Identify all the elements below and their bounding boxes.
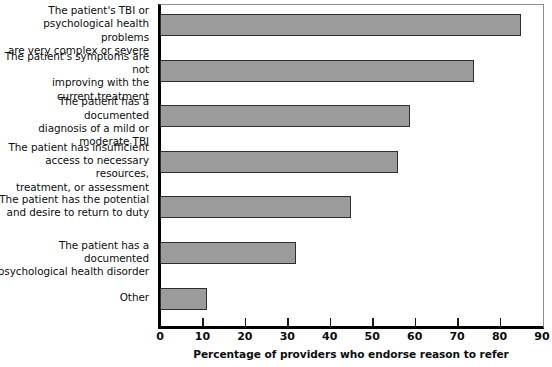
x-tick-label: 10: [189, 330, 215, 343]
bars-container: [160, 4, 542, 326]
bar-chart: The patient's TBI orpsychological health…: [0, 0, 552, 367]
bar: [160, 196, 351, 218]
category-label-line: improving with the: [0, 76, 149, 89]
category-label: The patient has the potentialand desire …: [0, 193, 149, 220]
category-label-line: access to necessary resources,: [0, 154, 149, 181]
bar: [160, 151, 398, 173]
category-label-line: treatment, or assessment: [0, 181, 149, 194]
x-tick-label: 60: [402, 330, 428, 343]
category-label-line: psychological health problems: [0, 17, 149, 44]
category-label-line: The patient has insufficient: [0, 141, 149, 154]
x-tick-label: 70: [444, 330, 470, 343]
bar: [160, 14, 521, 36]
category-label-line: The patient's symptoms are not: [0, 50, 149, 77]
bar: [160, 242, 296, 264]
bar: [160, 288, 207, 310]
x-tick-label: 20: [232, 330, 258, 343]
x-tick-label: 30: [274, 330, 300, 343]
category-label-line: psychological health disorder: [0, 265, 149, 278]
category-label-line: Other: [0, 291, 149, 304]
category-label-line: and desire to return to duty: [0, 206, 149, 219]
bar: [160, 60, 474, 82]
category-label: The patient has insufficientaccess to ne…: [0, 141, 149, 194]
category-label: Other: [0, 291, 149, 304]
bar: [160, 105, 410, 127]
category-axis-labels: The patient's TBI orpsychological health…: [0, 0, 153, 330]
x-axis-title: Percentage of providers who endorse reas…: [158, 348, 544, 360]
x-tick-label: 80: [487, 330, 513, 343]
x-tick-label: 0: [147, 330, 173, 343]
category-label-line: The patient has the potential: [0, 193, 149, 206]
category-label-line: The patient's TBI or: [0, 4, 149, 17]
category-label-line: diagnosis of a mild or: [0, 122, 149, 135]
x-tick-label: 40: [317, 330, 343, 343]
x-tick-label: 90: [529, 330, 552, 343]
x-tick-label: 50: [359, 330, 385, 343]
category-label-line: The patient has a documented: [0, 95, 149, 122]
category-label: The patient has a documentedpsychologica…: [0, 239, 149, 279]
category-label-line: The patient has a documented: [0, 239, 149, 266]
